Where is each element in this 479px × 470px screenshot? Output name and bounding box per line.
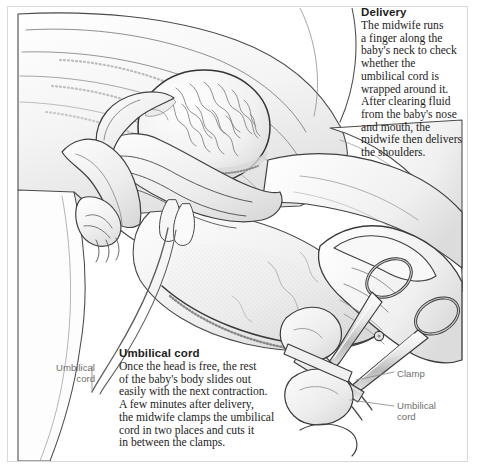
delivery-body: The midwife runs a finger along the baby… (361, 20, 473, 160)
umbilical-cord-body: Once the head is free, the rest of the b… (119, 361, 309, 450)
label-umbilical-cord-left: Umbilical cord (33, 363, 95, 384)
illustration-page: Delivery The midwife runs a finger along… (0, 0, 479, 470)
delivery-callout: Delivery The midwife runs a finger along… (361, 6, 473, 160)
umbilical-cord-heading: Umbilical cord (119, 347, 309, 360)
umbilical-cord-callout: Umbilical cord Once the head is free, th… (119, 347, 309, 450)
label-umbilical-cord-right: Umbilical cord (397, 401, 436, 422)
leader-cord-right (350, 400, 394, 406)
delivery-heading: Delivery (361, 6, 473, 19)
label-clamp: Clamp (397, 369, 425, 380)
